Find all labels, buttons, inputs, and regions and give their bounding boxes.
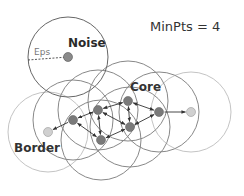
core-point — [94, 106, 103, 115]
border-point — [44, 128, 53, 137]
core-point — [97, 136, 106, 145]
border-point — [187, 108, 196, 117]
eps-label: Eps — [34, 47, 50, 57]
core-label: Core — [130, 80, 161, 94]
core-point — [124, 97, 133, 106]
noise-label: Noise — [68, 36, 106, 50]
eps-radius-line — [28, 57, 68, 60]
data-points — [44, 53, 196, 145]
reachability-arrow — [128, 106, 129, 121]
core-point — [155, 108, 164, 117]
noise-point — [64, 53, 73, 62]
eps-dashed-line — [28, 57, 68, 60]
minpts-label: MinPts = 4 — [150, 19, 220, 34]
eps-neighborhoods — [8, 17, 231, 180]
reachability-arrow — [103, 113, 125, 125]
core-point — [69, 116, 78, 125]
core-point — [126, 123, 135, 132]
dbscan-diagram: MinPts = 4 Noise Eps Core Border — [0, 0, 244, 196]
border-label: Border — [14, 141, 60, 155]
reachability-arrow — [99, 115, 101, 134]
reachability-arrow — [133, 103, 154, 110]
reachability-arrow — [106, 129, 125, 138]
